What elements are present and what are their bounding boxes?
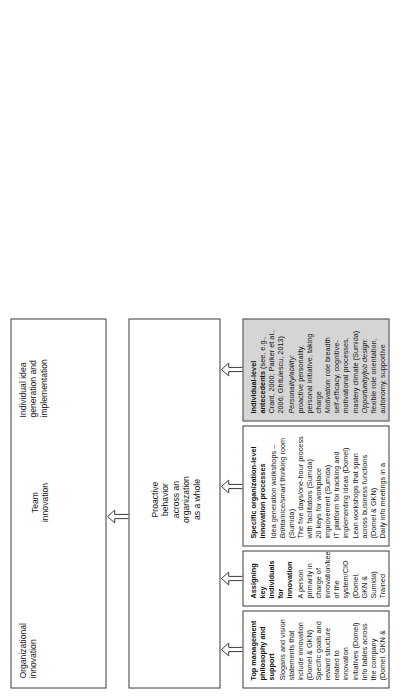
antecedent-line: IT platform for tracking and implementin… — [331, 433, 349, 538]
antecedent-line-list: Slogans and vision statements that inclu… — [277, 618, 389, 680]
antecedent-line: Specific goals and reward structure rela… — [313, 618, 358, 680]
antecedent-line-list: Personality/ability: proactive personali… — [286, 326, 389, 413]
figure-canvas: Organizational innovation Team innovatio… — [0, 0, 400, 699]
outcome-individual-idea-label: Individual idea generation and implement… — [17, 323, 48, 417]
antecedent-line-list: A person primarily in charge of innovati… — [295, 558, 389, 598]
antecedent-heading: Specific organization-level innovation p… — [248, 433, 266, 538]
antecedent-box-individual-level: Individual-level antecedents (see, e.g.,… — [242, 318, 389, 421]
antecedent-heading: Individual-level antecedents (see, e.g.,… — [248, 326, 284, 413]
antecedent-box-top-management: Top management philosophy and support Sl… — [242, 610, 389, 688]
antecedent-line: Lean workshops that span across business… — [350, 433, 377, 538]
arrow-processes-to-mediator-icon — [220, 478, 244, 494]
antecedent-line: Motivation: role breadth self-efficacy, … — [322, 326, 358, 413]
antecedent-heading: Top management philosophy and support — [248, 618, 275, 680]
antecedent-heading: Assigning key individuals for innovation — [248, 558, 293, 598]
arrow-top-management-to-mediator-icon — [220, 641, 244, 657]
arrow-individual-antecedents-to-mediator-icon — [220, 361, 244, 377]
antecedent-line: Personality/ability: proactive personali… — [286, 326, 322, 413]
antecedent-line: Idea generation workshops – Brihta/nice/… — [268, 433, 295, 538]
antecedent-line: Slogans and vision statements that inclu… — [277, 618, 313, 680]
antecedent-line: Trained facilitators and/or evaluators (… — [377, 558, 389, 598]
antecedent-line: Daily info meetings in a designated room… — [377, 433, 389, 538]
antecedent-line-list: Idea generation workshops – Brihta/nice/… — [268, 433, 389, 538]
antecedent-line: Info tables across the company (Domel, G… — [359, 618, 389, 680]
mediator-box: Proactive behavior across an organizatio… — [128, 318, 220, 688]
outcome-team-innovation-label: Team innovation — [29, 465, 50, 539]
antecedent-line: 20 keys for workplace improvement (Sumid… — [313, 433, 331, 538]
arrow-mediator-to-outcome-icon — [106, 508, 130, 524]
antecedent-box-key-individuals: Assigning key individuals for innovation… — [242, 550, 389, 606]
mediator-proactive-behavior-label: Proactive behavior across an organizatio… — [149, 457, 201, 541]
diagram-stage: Organizational innovation Team innovatio… — [0, 0, 400, 699]
outcome-box: Organizational innovation Team innovatio… — [10, 318, 106, 688]
antecedent-box-innovation-processes: Specific organization-level innovation p… — [242, 425, 389, 546]
antecedent-line: The five days/one-hour process with faci… — [295, 433, 313, 538]
antecedent-line: Opportunity/job design: flexible role or… — [359, 326, 389, 413]
antecedent-line: A person primarily in charge of innovati… — [295, 558, 377, 598]
outcome-organizational-innovation-label: Organizational innovation — [17, 604, 38, 678]
arrow-key-individuals-to-mediator-icon — [220, 570, 244, 586]
